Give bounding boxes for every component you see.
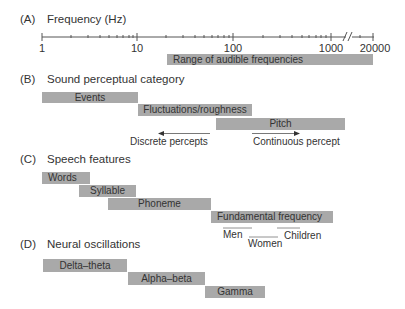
bar-gamma-label: Gamma: [217, 287, 253, 297]
panel-d-heading: Neural oscillations: [47, 238, 140, 250]
women-label: Women: [248, 238, 282, 249]
bar-gamma: Gamma: [205, 286, 265, 298]
bar-alpha-beta: Alpha–beta: [128, 272, 205, 285]
panel-d-letter: (D): [20, 238, 47, 250]
bar-delta-theta-label: Delta–theta: [59, 261, 110, 271]
bar-delta-theta: Delta–theta: [43, 259, 127, 272]
bar-alpha-beta-label: Alpha–beta: [141, 274, 192, 284]
men-label: Men: [223, 229, 242, 240]
panel-d-title: (D)Neural oscillations: [20, 238, 140, 250]
children-label: Children: [284, 230, 321, 241]
